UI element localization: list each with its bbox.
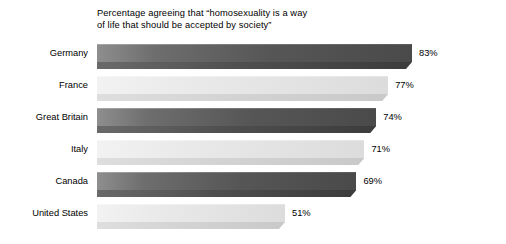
category-label-great-britain: Great Britain: [36, 112, 88, 123]
bar-highlight: [97, 76, 388, 77]
bar-france: [97, 76, 388, 102]
bar-italy: [97, 140, 364, 166]
bar-bevel: [97, 222, 285, 229]
value-label-france: 77%: [395, 80, 414, 91]
bar-chart: Percentage agreeing that “homosexuality …: [0, 0, 506, 244]
bar-row: Great Britain74%: [0, 106, 506, 138]
value-label-canada: 69%: [363, 176, 382, 187]
bar-row: Germany83%: [0, 42, 506, 74]
bar-bevel: [97, 126, 376, 133]
bar-row: Canada69%: [0, 170, 506, 202]
bar-highlight: [97, 140, 364, 141]
bar-germany: [97, 44, 412, 70]
chart-title: Percentage agreeing that “homosexuality …: [97, 7, 387, 32]
bar-bevel: [97, 94, 388, 101]
bar-bevel: [97, 62, 412, 69]
bar-highlight: [97, 108, 376, 109]
plot-area: Germany83%France77%Great Britain74%Italy…: [0, 40, 506, 240]
category-label-italy: Italy: [71, 144, 88, 155]
bar-face: [97, 44, 412, 62]
bar-bevel: [97, 190, 356, 197]
bar-row: France77%: [0, 74, 506, 106]
bar-face: [97, 76, 388, 94]
bar-united-states: [97, 204, 285, 230]
bar-highlight: [97, 204, 285, 205]
category-label-germany: Germany: [50, 48, 88, 59]
bar-highlight: [97, 172, 356, 173]
bar-bevel: [97, 158, 364, 165]
category-label-canada: Canada: [55, 176, 88, 187]
value-label-great-britain: 74%: [383, 112, 402, 123]
bar-face: [97, 204, 285, 222]
category-label-united-states: United States: [32, 208, 88, 219]
value-label-united-states: 51%: [292, 208, 311, 219]
bar-canada: [97, 172, 356, 198]
bar-row: United States51%: [0, 202, 506, 234]
value-label-italy: 71%: [371, 144, 390, 155]
bar-great-britain: [97, 108, 376, 134]
bar-row: Italy71%: [0, 138, 506, 170]
bar-face: [97, 140, 364, 158]
bar-face: [97, 108, 376, 126]
bar-highlight: [97, 44, 412, 45]
category-label-france: France: [59, 80, 88, 91]
value-label-germany: 83%: [419, 48, 438, 59]
bar-face: [97, 172, 356, 190]
